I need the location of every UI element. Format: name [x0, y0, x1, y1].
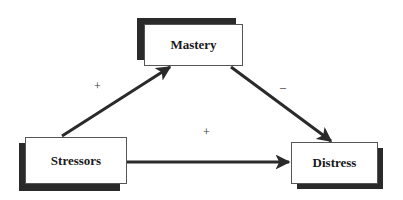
- edge-stressors-to-mastery: [62, 67, 170, 136]
- edge-sign-stressors-mastery: +: [94, 80, 101, 92]
- diagram-canvas: Mastery Stressors Distress + – +: [0, 0, 403, 200]
- edge-sign-stressors-distress: +: [203, 126, 210, 138]
- edge-mastery-to-distress: [231, 67, 331, 141]
- edge-sign-mastery-distress: –: [280, 81, 286, 93]
- edges-layer: [0, 0, 403, 200]
